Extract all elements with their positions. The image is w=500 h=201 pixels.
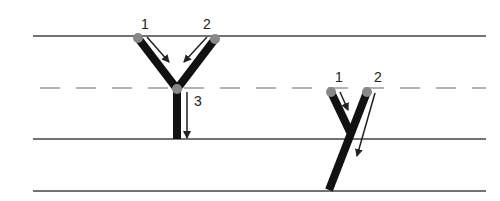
y-start-dot-1 — [326, 87, 336, 97]
uppercase-Y: 1 2 3 — [133, 16, 220, 139]
Y-label-2: 2 — [203, 16, 211, 32]
Y-label-1: 1 — [141, 16, 149, 32]
Y-stroke-2 — [177, 39, 215, 89]
y-start-dot-2 — [362, 87, 372, 97]
Y-start-dot-2 — [210, 34, 220, 44]
Y-start-dot-3 — [172, 84, 182, 94]
y-label-1: 1 — [335, 69, 343, 85]
guide-lines — [33, 36, 486, 191]
handwriting-diagram: 1 2 3 1 2 — [0, 0, 500, 201]
Y-label-3: 3 — [194, 93, 202, 109]
diagram-svg: 1 2 3 1 2 — [0, 0, 500, 201]
Y-stroke-1 — [138, 38, 177, 89]
y-label-2: 2 — [374, 69, 382, 85]
Y-start-dot-1 — [133, 33, 143, 43]
lowercase-y: 1 2 — [326, 69, 382, 190]
y-stroke-1 — [331, 92, 350, 132]
